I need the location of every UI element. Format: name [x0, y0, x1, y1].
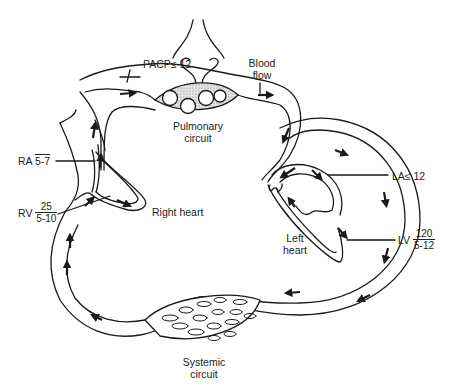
- ra-name: RA: [18, 155, 32, 167]
- rv-name: RV: [18, 207, 32, 219]
- ra-label: RA 5-7: [18, 155, 50, 167]
- rv-fraction: 25 5-10: [35, 201, 57, 224]
- right-heart-label: Right heart: [152, 206, 203, 218]
- lv-systolic: 120: [413, 228, 435, 240]
- lv-fraction: 120 5-12: [413, 228, 435, 251]
- la-label: LA≤ 12: [392, 170, 425, 182]
- blood-flow-line1: Blood: [244, 57, 280, 69]
- diagram-drawing: [0, 0, 452, 391]
- pacp-label: PACP≤ 12: [143, 58, 191, 70]
- ra-value: 5-7: [35, 155, 50, 167]
- left-heart-line2: heart: [279, 244, 311, 256]
- circulation-diagram: PACP≤ 12 Blood flow Pulmonary circuit RA…: [0, 0, 452, 391]
- blood-flow-line2: flow: [244, 69, 280, 81]
- pulmonary-line1: Pulmonary: [168, 120, 228, 132]
- lv-diastolic: 5-12: [413, 240, 435, 251]
- left-heart-line1: Left: [279, 232, 311, 244]
- pulmonary-line2: circuit: [168, 132, 228, 144]
- systemic-line2: circuit: [176, 368, 232, 380]
- lv-label: LV 120 5-12: [398, 228, 435, 251]
- lv-name: LV: [398, 234, 410, 246]
- pulmonary-circuit-label: Pulmonary circuit: [168, 120, 228, 144]
- rv-label: RV 25 5-10: [18, 201, 57, 224]
- rv-systolic: 25: [35, 201, 57, 213]
- blood-flow-label: Blood flow: [244, 57, 280, 81]
- airway-icon: [173, 20, 224, 88]
- systemic-line1: Systemic: [176, 356, 232, 368]
- systemic-circuit-label: Systemic circuit: [176, 356, 232, 380]
- rv-leader: [58, 196, 110, 214]
- rv-diastolic: 5-10: [35, 213, 57, 224]
- left-heart-label: Left heart: [279, 232, 311, 256]
